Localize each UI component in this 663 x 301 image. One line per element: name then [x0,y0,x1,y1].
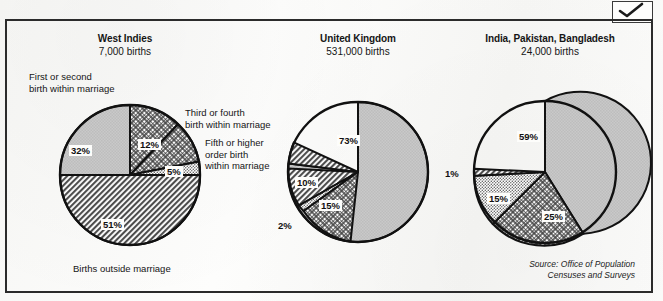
callout-third-or-fourth-line2: birth within marriage [185,119,271,131]
slice-label-wi-12: 12% [138,139,161,150]
callout-third-or-fourth: Third or fourth birth within marriage [185,107,271,130]
figure-page: West Indies 7,000 births First or second… [0,0,663,301]
callout-first-or-second-line1: First or second [29,71,115,83]
callout-first-or-second: First or second birth within marriage [29,71,115,94]
pie-subtitle-west-indies: 7,000 births [45,46,205,58]
callout-fifth-or-higher-line1: Fifth or higher [205,137,269,149]
callout-fifth-or-higher-line2: order birth [205,149,269,161]
source-note-line2: Censuses and Surveys [529,270,635,281]
pie-title-india-pakistan-bangladesh: India, Pakistan, Bangladesh [460,33,640,45]
source-note: Source: Office of Population Censuses an… [529,259,635,281]
slice-label-uk-10: 10% [295,177,318,188]
check-icon [613,2,649,19]
slice-label-india-1: 1% [445,168,459,179]
callout-outside-marriage: Births outside marriage [73,263,171,275]
callout-third-or-fourth-line1: Third or fourth [185,107,271,119]
chart-frame: West Indies 7,000 births First or second… [5,19,653,293]
slice-label-uk-2: 2% [278,220,292,231]
pie-subtitle-india-pakistan-bangladesh: 24,000 births [460,46,640,58]
callout-fifth-or-higher-line3: within marriage [205,160,269,172]
pie-title-west-indies: West Indies [45,33,205,45]
pie-title-united-kingdom: United Kingdom [278,33,438,45]
pie-chart-india-pakistan-bangladesh [462,89,637,264]
slice-label-india-15: 15% [487,193,510,204]
slice-label-wi-51: 51% [101,219,124,230]
slice-label-uk-15: 15% [319,200,342,211]
pie-chart-united-kingdom [278,89,443,259]
slice-west-indies-outside-marriage [60,175,200,245]
source-note-line1: Source: Office of Population [529,259,635,270]
callout-fifth-or-higher: Fifth or higher order birth within marri… [205,137,269,172]
callout-first-or-second-line2: birth within marriage [29,83,115,95]
slice-label-wi-5: 5% [165,166,183,177]
slice-label-uk-73: 73% [337,135,360,146]
slice-label-india-59: 59% [517,131,540,142]
pie-subtitle-united-kingdom: 531,000 births [278,46,438,58]
slice-label-india-25: 25% [542,211,565,222]
slice-label-wi-32: 32% [69,145,92,156]
